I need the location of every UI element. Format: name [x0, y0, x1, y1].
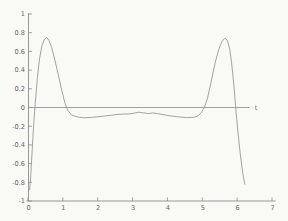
x-tick-label: 2: [96, 204, 100, 212]
x-tick-label: 3: [131, 204, 135, 212]
line-chart: 10.80.60.40.20-0.2-0.4-0.6-0.8-101234567…: [0, 0, 288, 221]
y-tick-label: 1: [21, 10, 25, 18]
t-axis-label: t: [255, 104, 258, 112]
x-tick-label: 7: [270, 204, 274, 212]
figure: 10.80.60.40.20-0.2-0.4-0.6-0.8-101234567…: [0, 0, 288, 221]
y-tick-label: -0.8: [12, 179, 25, 187]
y-tick-label: -0.4: [12, 141, 25, 149]
curve-path: [30, 37, 245, 189]
y-tick-label: 0: [21, 104, 25, 112]
x-tick-label: 4: [166, 204, 170, 212]
y-tick-label: 0.4: [15, 66, 26, 74]
y-tick-label: 0.2: [15, 85, 26, 93]
x-tick-label: 5: [201, 204, 205, 212]
y-tick-label: 0.6: [15, 48, 26, 56]
y-tick-label: 0.8: [15, 29, 26, 37]
y-tick-label: -0.2: [12, 123, 25, 131]
y-tick-label: -1: [18, 197, 25, 205]
x-tick-label: 0: [26, 204, 30, 212]
y-tick-label: -0.6: [12, 160, 25, 168]
x-tick-label: 1: [61, 204, 65, 212]
x-tick-label: 6: [236, 204, 240, 212]
